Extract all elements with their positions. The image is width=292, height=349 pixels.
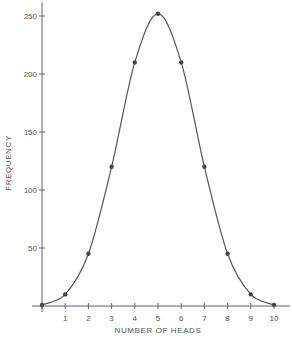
frequency-curve [42, 14, 274, 305]
x-tick-label: 6 [179, 314, 184, 323]
data-point [133, 60, 137, 64]
data-point [109, 165, 113, 169]
y-tick-label: 250 [24, 12, 38, 21]
x-tick-label: 4 [133, 314, 138, 323]
data-point [179, 60, 183, 64]
y-tick-label: 100 [24, 186, 38, 195]
y-axis-title: FREQUENCY [4, 135, 13, 191]
data-point [202, 165, 206, 169]
y-tick-label: 200 [24, 70, 38, 79]
data-point [40, 303, 44, 307]
x-axis-title: NUMBER OF HEADS [115, 326, 202, 335]
binomial-frequency-chart: 50100150200250 12345678910 NUMBER OF HEA… [0, 0, 292, 349]
x-tick-label: 8 [225, 314, 230, 323]
x-tick-label: 1 [63, 314, 68, 323]
data-point [156, 11, 160, 15]
data-point [225, 252, 229, 256]
data-point-markers [40, 11, 276, 307]
y-axis: 50100150200250 [24, 2, 45, 312]
x-tick-label: 7 [202, 314, 207, 323]
data-point [249, 292, 253, 296]
x-tick-label: 10 [270, 314, 279, 323]
y-tick-label: 50 [28, 244, 37, 253]
y-tick-label: 150 [24, 128, 38, 137]
x-tick-label: 9 [249, 314, 254, 323]
data-point [63, 292, 67, 296]
x-tick-label: 5 [156, 314, 161, 323]
x-tick-label: 3 [109, 314, 114, 323]
x-tick-label: 2 [86, 314, 91, 323]
data-point [272, 303, 276, 307]
data-point [86, 252, 90, 256]
x-axis: 12345678910 [32, 303, 290, 323]
